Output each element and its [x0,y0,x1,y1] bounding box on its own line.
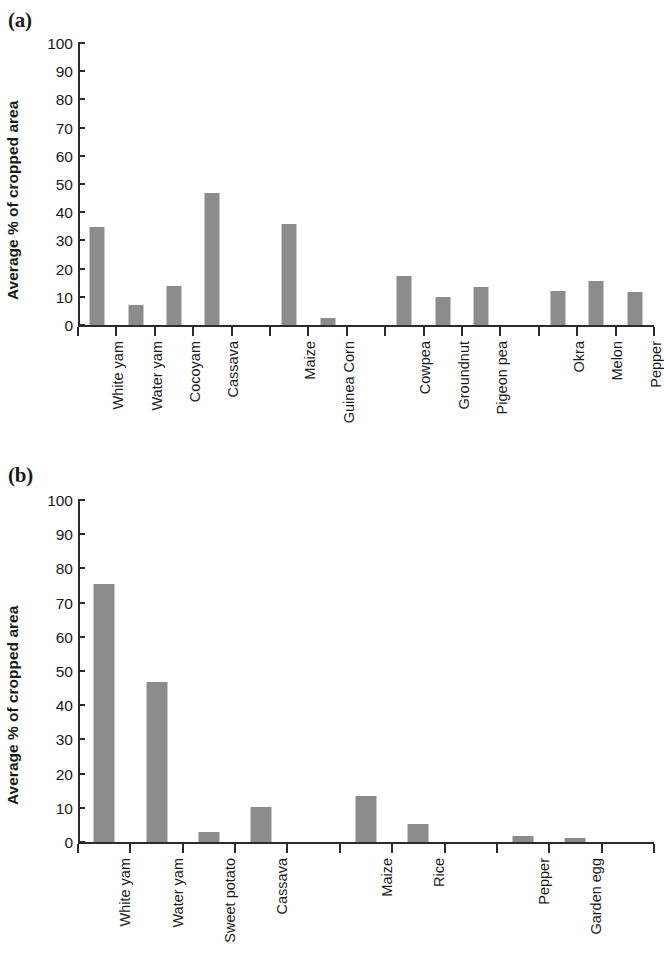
bar [205,193,220,325]
y-tick-70: 70 [56,119,78,137]
x-tick-mark [77,844,79,853]
y-tick-label: 0 [64,318,78,334]
x-tick-mark [286,844,288,853]
y-tick-80: 80 [56,559,78,577]
x-axis-label: Cowpea [417,288,433,341]
x-tick-mark [444,844,446,853]
bar [589,281,604,325]
y-tick-60: 60 [56,147,78,165]
y-tick-label: 20 [56,767,78,783]
x-tick-mark [339,844,341,853]
x-axis-label-text: Sweet potato [222,858,238,943]
bar [198,832,219,842]
y-tick-label: 10 [56,801,78,817]
y-tick-50: 50 [56,175,78,193]
panel-a-y-axis-label: Average % of cropped area [4,101,22,300]
y-tick-20: 20 [56,765,78,783]
y-tick-label: 80 [56,92,78,108]
bar [355,796,376,843]
panel-b-plot-area: 0102030405060708090100 White yamWater ya… [78,500,654,842]
bar [435,297,450,325]
x-tick-mark [231,327,233,336]
x-tick-mark [538,327,540,336]
x-axis-label: Pepper [648,294,664,341]
x-tick-mark [653,844,655,853]
bar-slot [616,43,654,325]
y-tick-40: 40 [56,696,78,714]
x-axis-label: Melon [609,302,625,342]
bar-slot [539,43,577,325]
y-tick-label: 40 [56,698,78,714]
panel-a-plot-area: 0102030405060708090100 White yamWater ya… [78,43,654,325]
bar [94,584,115,842]
bar [627,292,642,325]
y-tick-label: 50 [56,664,78,680]
y-tick-label: 60 [56,630,78,646]
x-axis-label-text: Cassava [225,341,241,397]
y-tick-10: 10 [56,799,78,817]
bar-slot [340,500,392,842]
bar-slot [270,43,308,325]
x-axis-label: Cassava [225,285,241,341]
panel-b-x-axis-line [78,842,654,844]
y-tick-label: 90 [56,64,78,80]
x-tick-mark [346,327,348,336]
x-tick-mark [499,327,501,336]
x-axis-label: Pigeon pea [494,268,510,341]
x-tick-mark [576,327,578,336]
y-tick-90: 90 [56,62,78,80]
bar-slot [385,43,423,325]
x-tick-mark [77,327,79,336]
x-tick-mark [391,844,393,853]
bar [166,286,181,325]
bar [565,838,586,842]
y-tick-label: 60 [56,149,78,165]
x-tick-mark [129,844,131,853]
x-axis-label-text: Maize [302,341,318,380]
bar-slot [577,43,615,325]
x-axis-label-text: Cassava [274,858,290,914]
y-tick-20: 20 [56,260,78,278]
panel-a: (a) Average % of cropped area 0102030405… [0,0,662,455]
bar [550,291,565,325]
x-tick-mark [182,844,184,853]
x-axis-label-text: Water yam [149,341,165,411]
panel-b-y-axis-label: Average % of cropped area [4,606,22,805]
panel-b-tag: (b) [8,463,33,488]
y-tick-0: 0 [64,833,78,851]
y-tick-90: 90 [56,525,78,543]
x-axis-label-text: Cocoyam [187,341,203,402]
x-axis-label: Groundnut [456,272,472,341]
x-tick-mark [269,327,271,336]
y-tick-label: 80 [56,561,78,577]
x-tick-mark [192,327,194,336]
bar-slot [497,500,549,842]
x-tick-mark [423,327,425,336]
bar [320,318,335,325]
x-tick-mark [615,327,617,336]
x-axis-label-text: Rice [431,858,447,887]
x-axis-label-text: Groundnut [456,341,472,410]
x-axis-label: Okra [571,310,587,341]
y-tick-50: 50 [56,662,78,680]
y-tick-label: 30 [56,732,78,748]
x-axis-label-text: Pigeon pea [494,341,510,414]
x-tick-mark [548,844,550,853]
panel-a-tag: (a) [8,8,32,33]
y-tick-label: 50 [56,177,78,193]
x-axis-label-text: Pepper [648,341,664,388]
x-axis-label-text: Okra [571,341,587,372]
x-tick-mark [154,327,156,336]
y-tick-80: 80 [56,90,78,108]
y-tick-label: 100 [47,36,78,52]
x-axis-label-text: Melon [609,341,625,381]
bar-slot [392,500,444,842]
x-axis-label-text: Garden egg [588,858,604,935]
bar [90,227,105,325]
bar [251,807,272,842]
bar [128,305,143,325]
y-tick-label: 90 [56,527,78,543]
x-tick-mark [384,327,386,336]
y-tick-100: 100 [47,491,78,509]
